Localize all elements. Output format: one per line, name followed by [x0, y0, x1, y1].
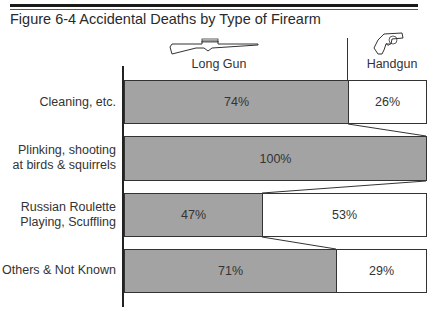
bar-row-russian-roulette: 47% 53%	[124, 193, 427, 237]
row-label-plinking: Plinking, shooting at birds & squirrels	[12, 143, 116, 173]
bar-row-plinking: 100%	[124, 136, 427, 180]
row-label-others: Others & Not Known	[2, 263, 116, 278]
segment-long-gun: 100%	[124, 136, 427, 181]
segment-long-gun: 47%	[124, 193, 263, 237]
segment-handgun: 29%	[336, 249, 427, 293]
bar-row-others: 71% 29%	[124, 249, 427, 293]
row-label-cleaning: Cleaning, etc.	[40, 95, 116, 110]
segment-handgun: 26%	[348, 80, 427, 124]
row-label-russian-roulette: Russian Roulette Playing, Scuffling	[20, 200, 116, 230]
segment-long-gun: 71%	[124, 249, 337, 293]
bar-row-cleaning: 74% 26%	[124, 80, 427, 124]
segment-long-gun: 74%	[124, 80, 349, 124]
segment-handgun: 53%	[262, 193, 427, 237]
